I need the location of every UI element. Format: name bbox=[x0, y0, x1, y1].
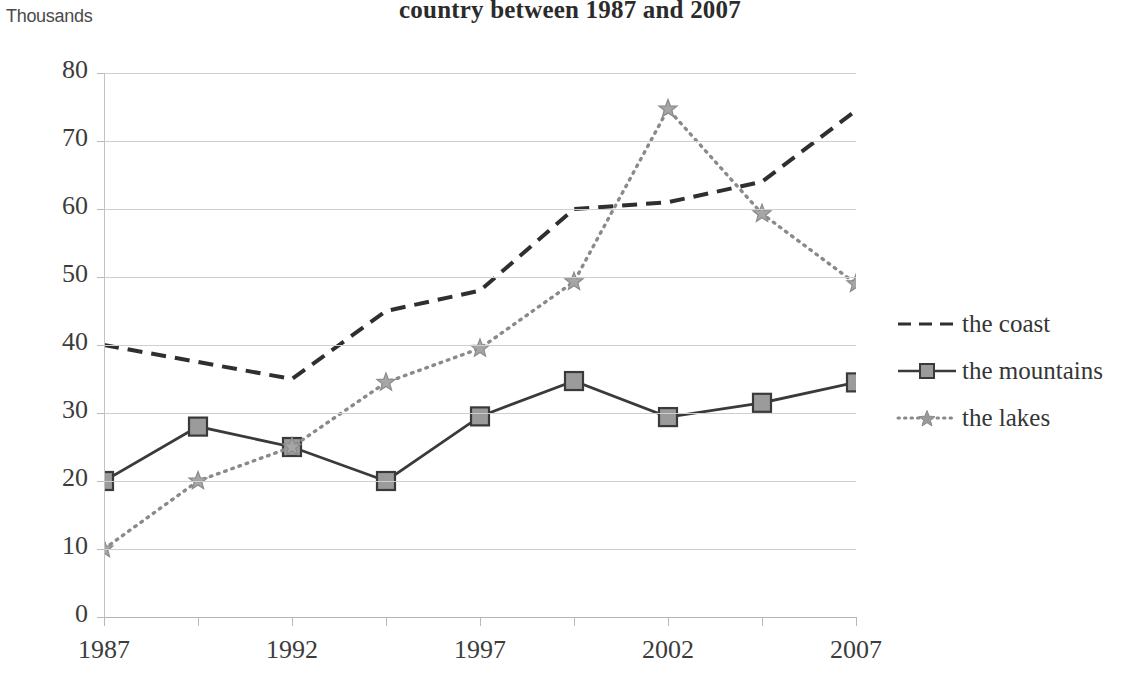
legend-item-the-lakes[interactable]: the lakes bbox=[896, 394, 1144, 441]
x-tick-label-1992: 1992 bbox=[242, 635, 342, 665]
x-tick-1999.5 bbox=[574, 617, 575, 626]
x-tick-2002 bbox=[668, 617, 669, 626]
y-tick-label-20: 20 bbox=[26, 463, 88, 493]
x-tick-label-2002: 2002 bbox=[618, 635, 718, 665]
x-tick-2007 bbox=[856, 617, 857, 626]
gridline-80 bbox=[104, 73, 856, 74]
x-tick-1997 bbox=[480, 617, 481, 626]
y-tick-label-10: 10 bbox=[26, 531, 88, 561]
legend-swatch-dotted-icon bbox=[896, 409, 958, 427]
y-tick-label-30: 30 bbox=[26, 395, 88, 425]
x-tick-1989.5 bbox=[198, 617, 199, 626]
legend-swatch-square-icon bbox=[896, 362, 958, 380]
data-point-marker bbox=[753, 394, 771, 412]
legend-swatch-dashed-icon bbox=[896, 315, 958, 333]
chart-title: country between 1987 and 2007 bbox=[240, 0, 900, 24]
gridline-10 bbox=[104, 549, 856, 550]
x-tick-label-2007: 2007 bbox=[806, 635, 906, 665]
y-tick-label-60: 60 bbox=[26, 191, 88, 221]
data-point-marker bbox=[471, 339, 489, 356]
y-axis-unit-label: Thousands bbox=[6, 6, 92, 27]
chart-legend: the coast the mountains the lakes bbox=[896, 300, 1144, 441]
series-line-1 bbox=[104, 381, 856, 481]
gridline-20 bbox=[104, 481, 856, 482]
series-the-lakes bbox=[104, 100, 856, 557]
data-point-marker bbox=[659, 100, 677, 117]
data-point-marker bbox=[847, 373, 856, 391]
legend-label-the-lakes: the lakes bbox=[962, 404, 1050, 432]
y-tick-label-40: 40 bbox=[26, 327, 88, 357]
data-point-marker bbox=[189, 418, 207, 436]
x-tick-1994.5 bbox=[386, 617, 387, 626]
legend-label-the-coast: the coast bbox=[962, 310, 1050, 338]
y-tick-label-0: 0 bbox=[26, 599, 88, 629]
legend-label-the-mountains: the mountains bbox=[962, 357, 1103, 385]
x-tick-1987 bbox=[104, 617, 105, 626]
data-point-marker bbox=[659, 408, 677, 426]
gridline-70 bbox=[104, 141, 856, 142]
series-the-mountains bbox=[104, 372, 856, 490]
gridline-40 bbox=[104, 345, 856, 346]
y-tick-label-80: 80 bbox=[26, 55, 88, 85]
plot-area bbox=[104, 73, 856, 617]
x-tick-label-1997: 1997 bbox=[430, 635, 530, 665]
y-tick-label-50: 50 bbox=[26, 259, 88, 289]
data-point-marker bbox=[565, 372, 583, 390]
gridline-60 bbox=[104, 209, 856, 210]
y-axis-line bbox=[104, 73, 105, 618]
legend-item-the-mountains[interactable]: the mountains bbox=[896, 347, 1144, 394]
series-line-2 bbox=[104, 109, 856, 549]
x-tick-2004.5 bbox=[762, 617, 763, 626]
gridline-30 bbox=[104, 413, 856, 414]
legend-item-the-coast[interactable]: the coast bbox=[896, 300, 1144, 347]
data-point-marker bbox=[471, 407, 489, 425]
line-chart: Thousands country between 1987 and 2007 … bbox=[0, 0, 1144, 673]
gridline-50 bbox=[104, 277, 856, 278]
x-tick-label-1987: 1987 bbox=[54, 635, 154, 665]
data-point-marker bbox=[565, 272, 583, 289]
y-tick-label-70: 70 bbox=[26, 123, 88, 153]
x-tick-1992 bbox=[292, 617, 293, 626]
